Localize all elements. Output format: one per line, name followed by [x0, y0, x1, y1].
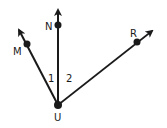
- angle-diagram: M N R U 1 2: [0, 0, 167, 128]
- point-n: [55, 22, 62, 29]
- label-n: N: [45, 21, 52, 32]
- label-u: U: [54, 112, 61, 123]
- angle-label-2: 2: [66, 73, 72, 84]
- point-u: [54, 101, 62, 109]
- label-m: M: [13, 46, 22, 57]
- point-m: [24, 41, 31, 48]
- angle-label-1: 1: [48, 73, 54, 84]
- label-r: R: [130, 28, 137, 39]
- point-r: [134, 39, 141, 46]
